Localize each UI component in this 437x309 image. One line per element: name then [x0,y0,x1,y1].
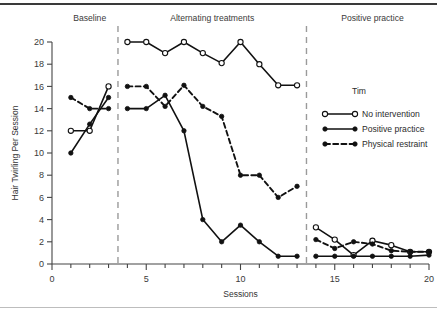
data-point-physical-restraint-x8 [201,104,205,108]
legend-label-physical-restraint: Physical restraint [362,139,428,149]
x-tick-label-15: 15 [330,274,340,284]
data-point-no-intervention-x4 [125,39,130,44]
series-line-positive-practice-seg2 [127,95,297,256]
data-point-no-intervention-x5 [144,39,149,44]
data-point-positive-practice-x12 [276,254,280,258]
line-chart: 0246810121416182005101520SessionsHair Tw… [0,0,437,309]
phase-label-alternating-treatments: Alternating treatments [170,13,254,23]
legend-marker-start-positive-practice [323,127,327,131]
data-point-no-intervention-x12 [276,83,281,88]
y-tick-label-8: 8 [39,170,44,180]
data-point-no-intervention-x14 [313,225,318,230]
data-point-positive-practice-x11 [257,240,261,244]
data-point-positive-practice-x18 [389,254,393,258]
y-tick-label-4: 4 [39,215,44,225]
data-point-positive-practice-x9 [219,240,223,244]
y-tick-label-16: 16 [34,82,44,92]
legend-label-positive-practice: Positive practice [362,124,425,134]
data-point-physical-restraint-x19 [408,250,412,254]
data-point-physical-restraint-x6 [163,104,167,108]
data-point-physical-restraint-x15 [333,246,337,250]
data-point-positive-practice-x16 [351,254,355,258]
data-point-positive-practice-x10 [238,223,242,227]
data-point-no-intervention-x9 [219,60,224,65]
data-point-no-intervention-x6 [163,51,168,56]
data-point-physical-restraint-x16 [351,240,355,244]
data-point-positive-practice-x14 [314,254,318,258]
y-tick-label-6: 6 [39,193,44,203]
data-point-no-intervention-x8 [200,51,205,56]
y-tick-label-0: 0 [39,259,44,269]
legend-marker-end-positive-practice [353,127,357,131]
data-point-positive-practice-x4 [125,106,129,110]
data-point-positive-practice-x15 [333,254,337,258]
data-point-no-intervention-x7 [181,39,186,44]
data-point-physical-restraint-x17 [370,242,374,246]
data-point-no-intervention-x2 [87,128,92,133]
legend-title: Tim [352,86,366,96]
data-point-physical-restraint-x2 [88,106,92,110]
data-point-positive-practice-x13 [295,254,299,258]
y-tick-label-20: 20 [34,37,44,47]
data-point-positive-practice-x6 [163,93,167,97]
data-point-physical-restraint-x9 [219,114,223,118]
phase-label-positive-practice: Positive practice [341,13,404,23]
x-tick-label-20: 20 [424,274,434,284]
data-point-positive-practice-x17 [370,254,374,258]
y-tick-label-18: 18 [34,59,44,69]
y-tick-label-10: 10 [34,148,44,158]
x-tick-label-0: 0 [49,274,54,284]
figure-root: 0246810121416182005101520SessionsHair Tw… [0,0,437,309]
data-point-positive-practice-x3 [106,95,110,99]
data-point-physical-restraint-x20 [427,250,431,254]
legend-marker-end-no-intervention [352,111,357,116]
legend-marker-start-no-intervention [322,111,327,116]
data-point-positive-practice-x5 [144,106,148,110]
data-point-physical-restraint-x3 [106,106,110,110]
data-point-no-intervention-x3 [106,84,111,89]
legend-label-no-intervention: No intervention [362,109,420,119]
data-point-physical-restraint-x12 [276,195,280,199]
x-tick-label-5: 5 [144,274,149,284]
data-point-physical-restraint-x13 [295,184,299,188]
data-point-physical-restraint-x18 [389,248,393,252]
legend-marker-end-physical-restraint [353,142,357,146]
y-tick-label-14: 14 [34,104,44,114]
y-tick-label-12: 12 [34,126,44,136]
data-point-physical-restraint-x1 [69,95,73,99]
data-point-physical-restraint-x10 [238,173,242,177]
data-point-no-intervention-x15 [332,237,337,242]
data-point-positive-practice-x7 [182,129,186,133]
data-point-positive-practice-x2 [88,122,92,126]
data-point-positive-practice-x1 [69,151,73,155]
data-point-no-intervention-x10 [238,39,243,44]
figure-top-rule [0,3,437,5]
x-tick-label-10: 10 [235,274,245,284]
data-point-no-intervention-x13 [294,83,299,88]
data-point-physical-restraint-x7 [182,83,186,87]
x-axis-title: Sessions [223,289,258,299]
legend-marker-start-physical-restraint [323,142,327,146]
data-point-physical-restraint-x14 [314,237,318,241]
y-axis-title: Hair Twirling Per Session [10,105,20,200]
data-point-physical-restraint-x11 [257,173,261,177]
data-point-no-intervention-x1 [68,128,73,133]
data-point-positive-practice-x19 [408,254,412,258]
data-point-positive-practice-x8 [201,217,205,221]
data-point-no-intervention-x11 [257,62,262,67]
y-tick-label-2: 2 [39,237,44,247]
data-point-physical-restraint-x5 [144,84,148,88]
data-point-no-intervention-x18 [389,243,394,248]
phase-label-baseline: Baseline [73,13,106,23]
data-point-physical-restraint-x4 [125,84,129,88]
series-line-physical-restraint-seg2 [127,85,297,197]
figure-bottom-rule [0,307,437,308]
series-line-no-intervention-seg2 [127,42,297,85]
